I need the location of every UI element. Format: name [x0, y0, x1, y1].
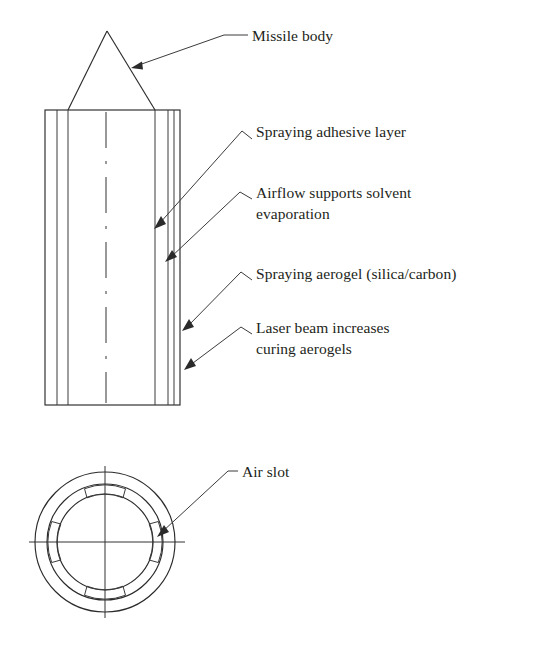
arrow-head-missile-body: [131, 62, 143, 70]
air-slot-north-edge-b: [123, 489, 126, 498]
callout-leader-air-slot: [157, 471, 238, 537]
technical-diagram-canvas: Missile body Spraying adhesive layer Air…: [0, 0, 545, 650]
callout-label-laser-beam-line2: curing aerogels: [256, 340, 352, 357]
cross-section-group: [29, 466, 185, 618]
air-slot-west-edge-b: [52, 560, 61, 563]
callout-leader-spraying-adhesive-layer: [154, 131, 252, 229]
callout-label-missile-body: Missile body: [252, 27, 333, 44]
figure-root: Missile body Spraying adhesive layer Air…: [0, 0, 545, 650]
nose-cone-left-edge: [68, 31, 107, 110]
callout-label-spraying-aerogel: Spraying aerogel (silica/carbon): [256, 265, 456, 283]
arrow-head-spraying-aerogel: [182, 319, 194, 331]
nose-cone-group: [68, 31, 155, 110]
air-slot-east-edge-a: [149, 522, 158, 525]
air-slot-north-edge-a: [85, 489, 88, 498]
air-slot-south-edge-a: [85, 586, 88, 595]
arrow-head-airflow: [165, 250, 177, 262]
callout-label-air-slot: Air slot: [242, 463, 290, 480]
nose-cone-right-edge: [107, 31, 155, 110]
callout-leader-laser-beam: [184, 327, 252, 370]
leader-line-laser-beam: [189, 327, 252, 366]
air-slot-east-edge-b: [149, 560, 158, 563]
body-outer-rectangle: [45, 110, 180, 405]
callout-label-airflow-line1: Airflow supports solvent: [256, 184, 412, 201]
missile-body-group: [45, 110, 180, 405]
leader-line-air-slot: [162, 471, 238, 532]
leader-line-spraying-aerogel: [187, 272, 252, 327]
air-slot-south-edge-b: [123, 586, 126, 595]
callout-leader-missile-body: [131, 35, 248, 70]
callout-leader-spraying-aerogel: [182, 272, 252, 331]
leader-line-spraying-adhesive-layer: [159, 131, 252, 224]
arrow-head-laser-beam: [184, 358, 196, 370]
air-slot-west-edge-a: [52, 522, 61, 525]
leader-line-missile-body: [136, 35, 248, 66]
callout-label-laser-beam-line1: Laser beam increases: [256, 319, 390, 336]
callout-label-airflow-line2: evaporation: [256, 205, 330, 222]
leader-line-airflow: [170, 192, 252, 258]
callout-label-spraying-adhesive-layer: Spraying adhesive layer: [256, 123, 407, 140]
